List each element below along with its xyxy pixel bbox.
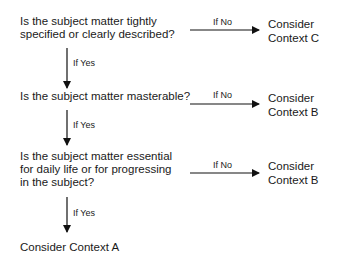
question-3-line-1: Is the subject matter essential bbox=[20, 150, 172, 163]
question-1: Is the subject matter tightly specified … bbox=[20, 15, 175, 41]
outcome-3: Consider Context B bbox=[268, 159, 319, 187]
yes-label-2: If Yes bbox=[73, 120, 95, 130]
final-outcome: Consider Context A bbox=[20, 241, 119, 254]
outcome-1-line-2: Context C bbox=[268, 31, 319, 45]
question-3: Is the subject matter essential for dail… bbox=[20, 150, 172, 189]
outcome-3-line-1: Consider bbox=[268, 159, 319, 173]
outcome-1-line-1: Consider bbox=[268, 17, 319, 31]
question-3-line-3: in the subject? bbox=[20, 176, 172, 189]
question-2: Is the subject matter masterable? bbox=[20, 90, 190, 103]
outcome-3-line-2: Context B bbox=[268, 173, 319, 187]
yes-label-3: If Yes bbox=[73, 208, 95, 218]
outcome-1: Consider Context C bbox=[268, 17, 319, 45]
outcome-2-line-2: Context B bbox=[268, 105, 319, 119]
question-1-line-2: specified or clearly described? bbox=[20, 28, 175, 41]
no-label-1: If No bbox=[213, 17, 232, 27]
no-label-2: If No bbox=[213, 90, 232, 100]
question-1-line-1: Is the subject matter tightly bbox=[20, 15, 175, 28]
question-3-line-2: for daily life or for progressing bbox=[20, 163, 172, 176]
outcome-2-line-1: Consider bbox=[268, 91, 319, 105]
no-label-3: If No bbox=[213, 160, 232, 170]
outcome-2: Consider Context B bbox=[268, 91, 319, 119]
question-2-line-1: Is the subject matter masterable? bbox=[20, 90, 190, 103]
yes-label-1: If Yes bbox=[73, 58, 95, 68]
